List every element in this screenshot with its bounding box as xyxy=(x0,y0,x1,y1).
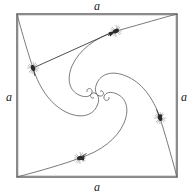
pursuit-curve-3 xyxy=(95,73,177,177)
pursuit-curve-1 xyxy=(17,14,99,116)
pursuit-curves xyxy=(17,14,177,177)
side-label-bottom: a xyxy=(90,181,104,193)
side-label-top: a xyxy=(90,0,104,12)
side-label-left: a xyxy=(2,91,16,103)
side-label-right: a xyxy=(177,91,191,103)
pursuit-curve-2 xyxy=(69,14,177,97)
pursuit-curve-4 xyxy=(17,92,127,177)
bug-right xyxy=(154,110,166,125)
bug-bottom xyxy=(74,152,87,164)
four-bugs-pursuit-figure: a a a a xyxy=(0,0,194,196)
figure-canvas xyxy=(0,0,194,196)
square-border xyxy=(17,14,177,177)
sight-line-left-to-top xyxy=(33,31,116,68)
bug-left xyxy=(27,62,39,76)
square-outline xyxy=(17,14,177,177)
